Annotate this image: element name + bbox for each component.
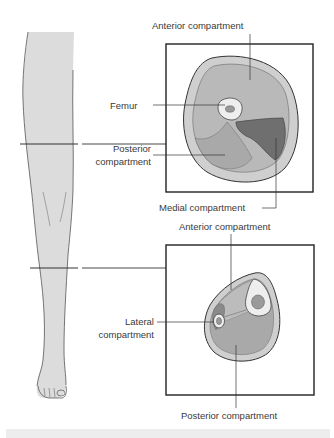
label-femur: Femur [110, 100, 137, 111]
label-leg-posterior: Posterior compartment [181, 410, 277, 421]
label-lateral-1: Lateral [100, 316, 154, 327]
leg-illustration [23, 32, 74, 398]
diagram-canvas [0, 0, 334, 438]
label-thigh-anterior: Anterior compartment [152, 20, 243, 31]
footer-bar [6, 429, 330, 438]
label-medial: Medial compartment [159, 202, 245, 213]
label-leg-anterior: Anterior compartment [179, 221, 270, 232]
thigh-cross-section [184, 56, 299, 182]
label-thigh-posterior-1: Posterior [83, 143, 151, 154]
label-lateral-2: compartment [84, 329, 154, 340]
label-thigh-posterior-2: compartment [75, 156, 151, 167]
